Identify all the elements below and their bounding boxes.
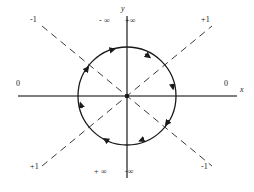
label-y-top-negative-infinity: - ∞: [99, 17, 110, 25]
label-diagonal-bottom-left: +1: [30, 163, 39, 171]
y-axis-label: y: [121, 5, 125, 13]
label-diagonal-top-right: +1: [201, 16, 210, 24]
arrow-left-lower: [81, 104, 83, 109]
label-y-bottom-positive-infinity: + ∞: [94, 168, 107, 176]
phase-diagram-figure: -1 +1 +1 -1 - ∞ +∞ y + ∞ -∞ 0 0 x: [0, 0, 254, 192]
x-axis-label: x: [240, 86, 244, 94]
label-x-right-zero: 0: [224, 80, 228, 88]
label-diagonal-top-left: -1: [30, 16, 37, 24]
label-y-top-positive-infinity: +∞: [125, 17, 136, 25]
origin-point: [125, 94, 129, 98]
label-y-bottom-negative-infinity: -∞: [125, 168, 134, 176]
label-x-left-zero: 0: [16, 80, 20, 88]
arrow-right-upper: [172, 84, 173, 89]
label-diagonal-bottom-right: -1: [201, 163, 208, 171]
arrow-bottom-right: [140, 139, 144, 141]
arrow-top-right: [145, 54, 150, 57]
